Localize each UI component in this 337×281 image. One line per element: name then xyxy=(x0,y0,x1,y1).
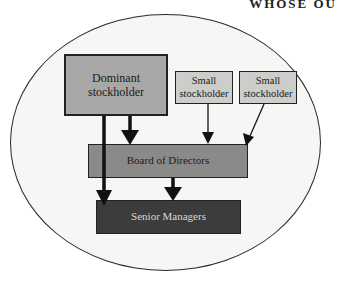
node-label: Board of Directors xyxy=(127,154,209,167)
node-label-line: Small xyxy=(244,75,293,88)
node-label-line: stockholder xyxy=(88,85,144,99)
node-label-line: stockholder xyxy=(244,88,293,101)
dominant-stockholder-node: Dominant stockholder xyxy=(64,54,168,116)
senior-managers-node: Senior Managers xyxy=(96,200,241,234)
small-stockholder-node-2: Small stockholder xyxy=(239,71,297,104)
node-label-line: Small xyxy=(180,75,229,88)
node-label-line: stockholder xyxy=(180,88,229,101)
page-header-fragment: WHOSE OU xyxy=(249,0,337,12)
board-of-directors-node: Board of Directors xyxy=(88,144,248,178)
small-stockholder-node-1: Small stockholder xyxy=(175,71,233,104)
node-label-line: Dominant xyxy=(88,71,144,85)
node-label: Senior Managers xyxy=(131,210,206,223)
